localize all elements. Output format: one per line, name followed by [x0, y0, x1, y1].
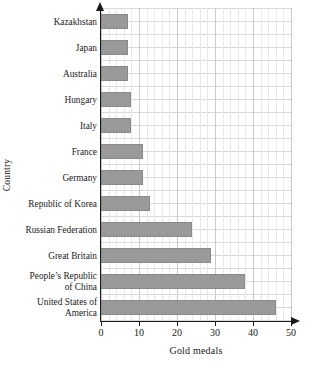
y-axis-tick-label-line: Italy	[14, 121, 97, 132]
bar	[101, 300, 276, 315]
x-axis-tick	[101, 322, 102, 326]
y-axis-title: Country	[0, 140, 14, 210]
y-axis-tick-label-line: France	[14, 147, 97, 158]
bar	[101, 222, 192, 237]
y-axis-tick-label-line: Germany	[14, 173, 97, 184]
bar	[101, 274, 245, 289]
y-axis-arrow-icon	[96, 2, 104, 11]
bar	[101, 196, 150, 211]
x-axis-tick-label: 10	[124, 327, 154, 338]
y-axis-tick-label: United States ofAmerica	[14, 297, 97, 318]
bar	[101, 14, 128, 29]
bar	[101, 248, 211, 263]
y-axis-tick-label-line: Japan	[14, 43, 97, 54]
y-axis-line	[100, 10, 101, 322]
y-axis-tick-label-line: Kazakhstan	[14, 17, 97, 28]
y-axis-title-text: Country	[2, 159, 12, 192]
x-axis-tick	[291, 322, 292, 326]
x-axis-title: Gold medals	[101, 345, 291, 356]
y-axis-tick-label: France	[14, 147, 97, 158]
bar-series	[101, 8, 291, 320]
x-axis-line	[100, 321, 293, 322]
y-axis-tick-label: Russian Federation	[14, 225, 97, 236]
bar	[101, 40, 128, 55]
x-axis-tick-label: 50	[276, 327, 306, 338]
bar	[101, 92, 131, 107]
y-axis-tick-label-line: Russian Federation	[14, 225, 97, 236]
y-axis-tick-label: People’s Republicof China	[14, 271, 97, 292]
x-axis-arrow-icon	[291, 317, 300, 325]
y-axis-tick-label-line: United States of	[14, 297, 97, 308]
y-axis-tick-label-line: Great Britain	[14, 251, 97, 262]
y-axis-tick-label: Great Britain	[14, 251, 97, 262]
bar	[101, 118, 131, 133]
y-axis-tick-label-line: People’s Republic	[14, 271, 97, 282]
y-axis-tick-label: Germany	[14, 173, 97, 184]
bar	[101, 170, 143, 185]
x-axis-tick-label: 0	[86, 327, 116, 338]
x-axis-tick-label: 40	[238, 327, 268, 338]
y-axis-tick-label-line: Republic of Korea	[14, 199, 97, 210]
y-axis-tick-label-line: America	[14, 308, 97, 319]
x-axis-tick	[215, 322, 216, 326]
y-axis-tick-label: Japan	[14, 43, 97, 54]
y-axis-tick-label-line: of China	[14, 282, 97, 293]
bar-chart: Country KazakhstanJapanAustraliaHungaryI…	[0, 0, 310, 365]
y-axis-tick-label-line: Hungary	[14, 95, 97, 106]
y-axis-tick-labels: KazakhstanJapanAustraliaHungaryItalyFran…	[14, 8, 99, 320]
y-axis-tick-label: Australia	[14, 69, 97, 80]
bar	[101, 66, 128, 81]
x-axis-tick	[139, 322, 140, 326]
x-axis-tick	[177, 322, 178, 326]
y-axis-tick-label: Hungary	[14, 95, 97, 106]
y-axis-tick-label: Italy	[14, 121, 97, 132]
x-axis-tick-label: 20	[162, 327, 192, 338]
x-axis-tick	[253, 322, 254, 326]
bar	[101, 144, 143, 159]
gridline-major	[291, 8, 292, 320]
y-axis-tick-label: Kazakhstan	[14, 17, 97, 28]
y-axis-tick-label-line: Australia	[14, 69, 97, 80]
x-axis-tick-label: 30	[200, 327, 230, 338]
y-axis-tick-label: Republic of Korea	[14, 199, 97, 210]
plot-area	[101, 8, 291, 320]
